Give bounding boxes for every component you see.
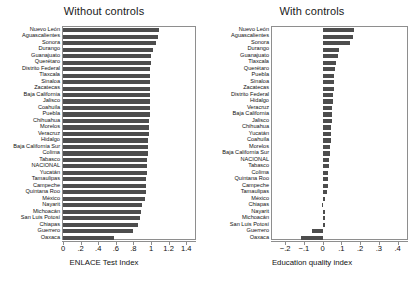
x-axis-without-controls — [62, 241, 196, 242]
plot-area-with-controls — [271, 26, 408, 240]
x-axis-title-without-controls: ENLACE Test Index — [0, 258, 208, 267]
bar — [63, 138, 148, 142]
x-tick-label: −.1 — [298, 244, 309, 253]
bar — [323, 28, 354, 32]
x-tick-label: 0 — [61, 244, 65, 253]
bar — [63, 93, 150, 97]
bar-series-with-controls — [272, 27, 407, 239]
bar — [63, 61, 151, 65]
bar — [63, 35, 158, 39]
x-tick-label: 1 — [149, 244, 153, 253]
x-tick-label: 1.2 — [163, 244, 174, 253]
x-axis-with-controls — [271, 241, 408, 242]
bar — [63, 203, 142, 207]
bar — [312, 229, 323, 233]
bar — [63, 87, 150, 91]
x-tick-label: .4 — [394, 244, 400, 253]
bar — [63, 54, 151, 58]
panel-title-with-controls: With controls — [208, 5, 416, 17]
bar — [63, 48, 153, 52]
bar — [63, 158, 147, 162]
bar — [323, 197, 325, 201]
bar — [323, 145, 331, 149]
bar — [323, 223, 326, 227]
x-tick-label: .3 — [376, 244, 382, 253]
bar — [323, 151, 330, 155]
bar — [63, 41, 156, 45]
x-tick-label: .2 — [357, 244, 363, 253]
bar — [63, 177, 146, 181]
bar — [63, 236, 114, 240]
bar — [63, 99, 150, 103]
bar — [63, 145, 148, 149]
bar — [63, 132, 149, 136]
bar — [323, 119, 332, 123]
bar — [323, 54, 338, 58]
bar — [323, 106, 333, 110]
x-tick-label: −.2 — [280, 244, 291, 253]
bar — [323, 216, 325, 220]
bar — [323, 87, 334, 91]
bar — [63, 190, 146, 194]
bar — [63, 125, 149, 129]
bar — [301, 236, 323, 240]
bar — [323, 158, 330, 162]
bar — [63, 67, 150, 71]
bar — [323, 99, 333, 103]
bar — [323, 164, 329, 168]
bar — [63, 197, 145, 201]
bar — [323, 171, 329, 175]
bar — [323, 210, 325, 214]
bar — [63, 151, 148, 155]
bar — [63, 112, 150, 116]
bar — [323, 48, 339, 52]
bar — [63, 171, 147, 175]
x-tick-label: 1.4 — [181, 244, 192, 253]
bar — [63, 80, 150, 84]
bar — [323, 190, 327, 194]
x-axis-title-with-controls: Education quality index — [208, 258, 416, 267]
bar-row — [63, 235, 195, 241]
x-tick-label: .6 — [113, 244, 119, 253]
bar — [63, 74, 150, 78]
x-tick-label: .1 — [338, 244, 344, 253]
panel-title-without-controls: Without controls — [0, 5, 208, 17]
bar — [63, 28, 159, 32]
x-tick-label: .8 — [130, 244, 136, 253]
bar — [63, 210, 141, 214]
bar — [323, 80, 334, 84]
bar — [323, 125, 332, 129]
bar — [323, 177, 328, 181]
bar — [63, 184, 146, 188]
x-tick-label: .4 — [95, 244, 101, 253]
bar-series-without-controls — [63, 27, 195, 239]
figure-two-panel-bar-charts: Without controls Nuevo LeónAguascaliente… — [0, 0, 416, 283]
bar — [63, 216, 140, 220]
x-tick-label: .2 — [77, 244, 83, 253]
bar — [323, 184, 328, 188]
bar — [322, 203, 323, 207]
bar — [63, 119, 149, 123]
bar — [63, 164, 147, 168]
plot-area-without-controls — [62, 26, 196, 240]
bar-row — [272, 235, 407, 241]
bar — [63, 106, 150, 110]
category-label: Oaxaca — [208, 234, 269, 240]
bar — [323, 61, 336, 65]
bar — [63, 223, 138, 227]
bar — [323, 138, 331, 142]
bar — [323, 132, 331, 136]
bar — [323, 67, 335, 71]
category-label: Oaxaca — [0, 234, 60, 240]
bar — [63, 229, 133, 233]
x-tick-label: 0 — [321, 244, 325, 253]
bar — [323, 74, 335, 78]
bar — [323, 112, 332, 116]
bar — [323, 35, 353, 39]
bar — [323, 41, 351, 45]
panel-without-controls: Without controls Nuevo LeónAguascaliente… — [0, 0, 208, 283]
panel-with-controls: With controls Nuevo LeónAguascalientesSo… — [208, 0, 416, 283]
bar — [323, 93, 334, 97]
